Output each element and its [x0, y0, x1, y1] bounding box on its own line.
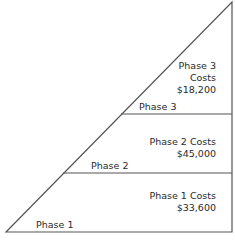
phase-3-label: Phase 3 [139, 101, 176, 113]
phase-1-costs-title: Phase 1 Costs [149, 190, 216, 202]
phase-1-costs-label: Phase 1 Costs $33,600 [149, 190, 216, 214]
phase-2-cost-value: $45,000 [149, 148, 216, 160]
phase-3-costs-title-2: Costs [177, 72, 216, 84]
phase-2-costs-label: Phase 2 Costs $45,000 [149, 136, 216, 160]
phase-3-costs-title-1: Phase 3 [177, 60, 216, 72]
phase-2-label: Phase 2 [91, 160, 128, 172]
phase-3-cost-value: $18,200 [177, 84, 216, 96]
phase-3-costs-label: Phase 3 Costs $18,200 [177, 60, 216, 96]
phase-1-label: Phase 1 [36, 219, 73, 231]
phase-1-cost-value: $33,600 [149, 202, 216, 214]
phase-2-costs-title: Phase 2 Costs [149, 136, 216, 148]
